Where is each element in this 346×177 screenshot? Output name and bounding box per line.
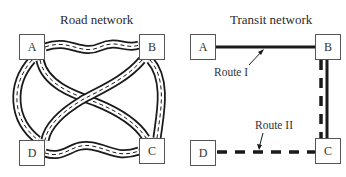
road-node-b: B <box>139 34 165 60</box>
road-node-d: D <box>19 140 45 166</box>
route-1-label: Route I <box>214 66 248 78</box>
transit-network-routes <box>215 47 327 152</box>
transit-node-a: A <box>190 34 216 60</box>
road-b-c <box>150 60 161 138</box>
transit-node-b: B <box>315 34 341 60</box>
road-d-c <box>45 145 139 154</box>
road-network-title: Road network <box>60 12 133 28</box>
road-node-a: A <box>19 34 45 60</box>
transit-network-title: Transit network <box>230 12 312 28</box>
route-2-label: Route II <box>255 119 293 131</box>
transit-node-d: D <box>190 140 216 166</box>
road-a-d <box>17 60 38 140</box>
transit-node-c: C <box>315 138 341 164</box>
road-node-c: C <box>139 138 165 164</box>
road-a-b <box>45 44 139 50</box>
